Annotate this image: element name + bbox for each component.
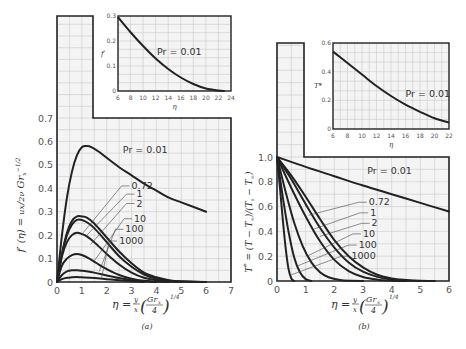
chart-b-y-axis-label: T* = (T − T∞)/(Ts − T∞) xyxy=(242,171,255,272)
svg-text:1/4: 1/4 xyxy=(389,293,399,300)
x-tick-label: 0 xyxy=(274,284,280,295)
inset-y-axis-label: f′ xyxy=(100,50,106,58)
chart-a-inset: Pr = 0.0168101214161820222400.10.20.3ηf′ xyxy=(100,12,235,111)
y-tick-label: 0.5 xyxy=(38,159,53,170)
inset-curve-label: Pr = 0.01 xyxy=(157,46,202,57)
curve-label: 10 xyxy=(363,228,375,239)
svg-text:): ) xyxy=(381,296,389,316)
inset-x-tick-label: 16 xyxy=(402,132,410,139)
svg-text:4: 4 xyxy=(151,306,157,315)
inset-x-tick-label: 14 xyxy=(164,94,172,101)
svg-text:x: x xyxy=(377,299,380,305)
chart-a-y-ticks: 00.10.20.30.40.50.60.7 xyxy=(38,113,53,288)
inset-y-tick-label: 0.3 xyxy=(106,12,116,19)
chart-b-x-ticks: 0123456 xyxy=(274,284,452,295)
curve-label: 100 xyxy=(359,239,377,250)
svg-text:4: 4 xyxy=(370,306,376,315)
svg-text:): ) xyxy=(162,296,170,316)
y-tick-label: 0.7 xyxy=(38,113,53,124)
svg-text:1/4: 1/4 xyxy=(170,293,180,300)
figure-canvas: Pr = 0.010.7212101001000 01234567 00.10.… xyxy=(0,0,466,349)
y-tick-label: 0.4 xyxy=(258,226,273,237)
curve-label: 2 xyxy=(372,217,378,228)
inset-x-tick-label: 10 xyxy=(139,94,147,101)
chart-a-velocity-profile: Pr = 0.010.7212101001000 01234567 00.10.… xyxy=(38,12,235,296)
inset-x-tick-label: 18 xyxy=(190,94,198,101)
svg-text:f′ (η) = ux/2ν Grx−1/2: f′ (η) = ux/2ν Grx−1/2 xyxy=(14,157,27,253)
inset-x-tick-label: 12 xyxy=(373,132,381,139)
y-tick-label: 0.1 xyxy=(38,253,53,264)
y-tick-label: 0.2 xyxy=(258,251,273,262)
svg-text:Gr: Gr xyxy=(366,295,377,304)
curve-label: 0.72 xyxy=(369,196,390,207)
inset-x-tick-label: 14 xyxy=(387,132,395,139)
chart-a-caption: (a) xyxy=(141,322,152,331)
chart-b-y-ticks: 00.20.40.60.81.0 xyxy=(258,152,273,287)
inset-x-tick-label: 16 xyxy=(177,94,185,101)
curve-label: 1000 xyxy=(352,250,376,261)
curve-label: 1000 xyxy=(119,235,143,246)
chart-b-inset: Pr = 0.01681012141618202200.20.40.6ηT* xyxy=(314,39,453,149)
svg-text:x: x xyxy=(158,299,161,305)
inset-x-tick-label: 20 xyxy=(431,132,439,139)
y-tick-label: 0 xyxy=(267,276,273,287)
inset-x-tick-label: 10 xyxy=(358,132,366,139)
inset-y-tick-label: 0.4 xyxy=(321,68,331,75)
inset-x-axis-label: η xyxy=(389,141,394,149)
y-tick-label: 0 xyxy=(47,277,53,288)
x-tick-label: 2 xyxy=(331,284,337,295)
curve-label: 10 xyxy=(134,213,146,224)
x-tick-label: 3 xyxy=(129,285,135,296)
svg-text:(: ( xyxy=(359,296,366,316)
curve-label: 1 xyxy=(370,207,376,218)
y-tick-label: 1.0 xyxy=(258,152,273,163)
inset-y-tick-label: 0 xyxy=(327,125,331,132)
inset-x-tick-label: 18 xyxy=(416,132,424,139)
svg-text:x: x xyxy=(134,306,138,314)
inset-x-tick-label: 12 xyxy=(152,94,160,101)
chart-b-x-axis-label: η = y x ( Gr x 4 ) 1/4 xyxy=(331,293,399,316)
x-tick-label: 2 xyxy=(104,285,110,296)
y-tick-label: 0.2 xyxy=(38,230,53,241)
svg-text:Gr: Gr xyxy=(147,295,158,304)
x-tick-label: 6 xyxy=(446,284,452,295)
x-tick-label: 1 xyxy=(303,284,309,295)
y-tick-label: 0.8 xyxy=(258,176,273,187)
curve-label: 100 xyxy=(125,223,143,234)
chart-a-x-axis-label: η = y x ( Gr x 4 ) 1/4 xyxy=(112,293,180,316)
x-tick-label: 0 xyxy=(54,285,60,296)
chart-b-caption: (b) xyxy=(358,322,369,331)
inset-x-tick-label: 24 xyxy=(227,94,235,101)
inset-x-tick-label: 6 xyxy=(116,94,120,101)
svg-text:η =: η = xyxy=(112,298,131,311)
inset-x-tick-label: 20 xyxy=(202,94,210,101)
svg-text:y: y xyxy=(352,296,358,304)
inset-y-tick-label: 0 xyxy=(112,87,116,94)
inset-y-axis-label: T* xyxy=(314,82,323,90)
y-tick-label: 0.6 xyxy=(38,136,53,147)
x-tick-label: 1 xyxy=(79,285,85,296)
x-tick-label: 6 xyxy=(203,285,209,296)
y-tick-label: 0.6 xyxy=(258,201,273,212)
chart-b-temperature-profile: Pr = 0.010.7212101001000 0123456 00.20.4… xyxy=(258,39,453,295)
curve-label: Pr = 0.01 xyxy=(367,165,412,176)
inset-x-axis-label: η xyxy=(172,103,177,111)
y-tick-label: 0.3 xyxy=(38,206,53,217)
x-tick-label: 5 xyxy=(417,284,423,295)
curve-label: 2 xyxy=(137,198,143,209)
svg-text:y: y xyxy=(133,296,139,304)
inset-x-tick-label: 8 xyxy=(346,132,350,139)
x-tick-label: 3 xyxy=(360,284,366,295)
svg-text:T* = (T − T∞)/(Ts − T∞): T* = (T − T∞)/(Ts − T∞) xyxy=(242,171,255,272)
y-tick-label: 0.4 xyxy=(38,183,53,194)
inset-curve-label: Pr = 0.01 xyxy=(406,88,451,99)
inset-y-tick-label: 0.1 xyxy=(106,62,116,69)
chart-a-y-axis-label: f′ (η) = ux/2ν Grx−1/2 xyxy=(14,157,27,253)
svg-text:η =: η = xyxy=(331,298,350,311)
inset-x-tick-label: 22 xyxy=(215,94,223,101)
inset-y-tick-label: 0.6 xyxy=(321,39,331,46)
x-tick-label: 7 xyxy=(228,285,234,296)
svg-text:x: x xyxy=(353,306,357,314)
svg-text:(: ( xyxy=(140,296,147,316)
chart-a-x-ticks: 01234567 xyxy=(54,285,234,296)
